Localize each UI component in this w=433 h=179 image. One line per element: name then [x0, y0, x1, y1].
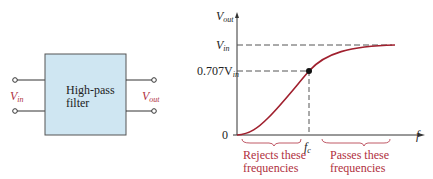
reject-label-line1: Rejects these [243, 148, 306, 162]
response-curve [237, 45, 395, 135]
output-voltage-label: Vout [142, 89, 160, 104]
filter-block-diagram: High-pass filter Vin Vout [10, 54, 160, 135]
vin-tick-label: Vin [216, 38, 230, 53]
output-terminal-top [152, 78, 157, 83]
input-terminal-bottom [13, 109, 18, 114]
cutoff-point [306, 68, 312, 74]
pass-brace [322, 139, 390, 146]
output-terminal-bottom [152, 109, 157, 114]
high-pass-filter-diagram: High-pass filter Vin Vout Vout Vin 0.707… [0, 0, 433, 179]
y-axis-arrow-icon [235, 12, 239, 18]
reject-brace [242, 139, 301, 146]
zero-tick-label: 0 [222, 128, 228, 142]
frequency-response-graph: Vout Vin 0.707Vin 0 fc f Rejects these f… [197, 9, 425, 175]
filter-label-line2: filter [66, 96, 89, 110]
pass-label-line2: frequencies [330, 161, 386, 175]
y-axis-label: Vout [216, 9, 234, 24]
filter-label-line1: High-pass [66, 83, 115, 97]
reject-label-line2: frequencies [243, 161, 299, 175]
input-voltage-label: Vin [10, 89, 24, 104]
pass-label-line1: Passes these [330, 148, 389, 162]
input-terminal-top [13, 78, 18, 83]
cutoff-level-tick-label: 0.707Vin [197, 64, 239, 79]
